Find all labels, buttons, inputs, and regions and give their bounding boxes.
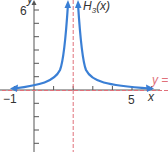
x-axis-label: x (147, 90, 155, 104)
function-graph: 6 −1 5 x y H3(x) y = (0, 0, 168, 152)
x-tick-label-neg1: −1 (3, 92, 17, 106)
curve-right-branch (78, 4, 150, 89)
y-ticks (34, 10, 39, 143)
arrow-left-top-icon (65, 0, 72, 8)
arrow-right-top-icon (75, 0, 82, 8)
y-tick-label-6: 6 (20, 4, 27, 18)
y-axis-label: y (26, 0, 34, 6)
asymptote-label: y = (151, 73, 168, 87)
x-tick-label-5: 5 (128, 93, 135, 107)
function-label: H3(x) (83, 0, 110, 15)
